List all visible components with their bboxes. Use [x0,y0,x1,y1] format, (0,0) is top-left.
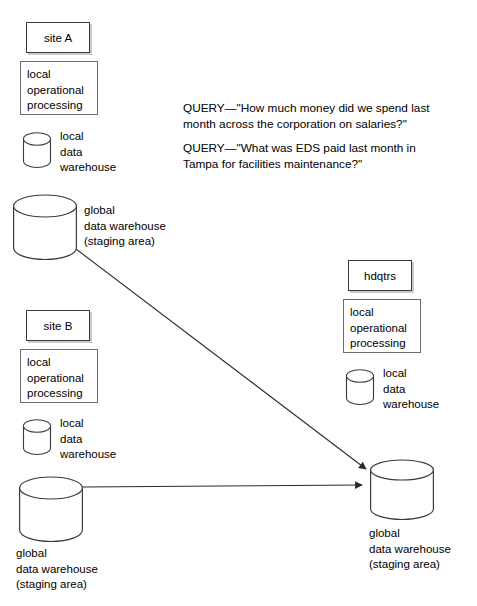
hdqtrs-processing-line-3: processing [350,336,420,352]
hdqtrs-global-warehouse-cylinder[interactable] [369,459,435,527]
query-item-2: QUERY—"What was EDS paid last month in T… [183,141,448,172]
hdqtrs-local-warehouse-cylinder[interactable] [345,369,375,407]
query-item-1: QUERY—"How much money did we spend last … [183,101,448,132]
hdqtrs-local-warehouse-line-1: local [383,366,439,382]
hdqtrs-processing-line-1: local [350,305,420,321]
site-a-global-warehouse-line-3: (staging area) [84,234,166,250]
site-b-local-warehouse-label: local data warehouse [60,416,116,463]
site-a-processing-line-1: local [27,67,97,83]
site-a-local-warehouse-line-3: warehouse [60,160,116,176]
site-a-global-warehouse-line-1: global [84,203,166,219]
hdqtrs-global-warehouse-line-1: global [369,526,451,542]
site-a-operational-processing-box[interactable]: local operational processing [20,61,98,115]
site-b-global-warehouse-cylinder[interactable] [18,476,84,548]
hdqtrs-global-warehouse-line-2: data warehouse [369,542,451,558]
hdqtrs-local-warehouse-line-2: data [383,382,439,398]
site-a-local-warehouse-cylinder[interactable] [22,132,52,170]
query-list: QUERY—"How much money did we spend last … [183,101,451,172]
site-a-global-warehouse-line-2: data warehouse [84,219,166,235]
site-a-local-warehouse-line-1: local [60,129,116,145]
hdqtrs-local-warehouse-line-3: warehouse [383,397,439,413]
site-b-operational-processing-box[interactable]: local operational processing [20,349,98,403]
site-b-processing-line-1: local [27,355,97,371]
site-b-global-warehouse-line-3: (staging area) [16,577,98,593]
site-a-processing-line-3: processing [27,98,97,114]
hdqtrs-header-label: hdqtrs [364,269,396,283]
site-b-global-warehouse-label: global data warehouse (staging area) [16,546,98,593]
hdqtrs-processing-line-2: operational [350,321,420,337]
site-a-header-box[interactable]: site A [26,22,90,53]
site-a-processing-line-2: operational [27,83,97,99]
site-b-global-warehouse-line-2: data warehouse [16,562,98,578]
site-b-local-warehouse-line-3: warehouse [60,447,116,463]
connector-site-b-to-hdqtrs [83,485,362,487]
site-b-processing-line-2: operational [27,371,97,387]
site-b-local-warehouse-line-2: data [60,432,116,448]
site-b-header-box[interactable]: site B [26,310,90,341]
site-a-header-label: site A [44,31,72,45]
hdqtrs-header-box[interactable]: hdqtrs [348,260,412,291]
site-b-local-warehouse-cylinder[interactable] [22,419,52,457]
site-a-local-warehouse-line-2: data [60,145,116,161]
hdqtrs-global-warehouse-line-3: (staging area) [369,557,451,573]
site-b-header-label: site B [44,319,73,333]
site-b-global-warehouse-line-1: global [16,546,98,562]
site-a-global-warehouse-label: global data warehouse (staging area) [84,203,166,250]
site-a-local-warehouse-label: local data warehouse [60,129,116,176]
site-b-processing-line-3: processing [27,386,97,402]
hdqtrs-operational-processing-box[interactable]: local operational processing [343,299,421,353]
site-b-local-warehouse-line-1: local [60,416,116,432]
site-a-global-warehouse-cylinder[interactable] [12,194,78,266]
diagram-canvas: site A local operational processing loca… [0,0,477,606]
hdqtrs-local-warehouse-label: local data warehouse [383,366,439,413]
hdqtrs-global-warehouse-label: global data warehouse (staging area) [369,526,451,573]
connector-site-a-to-hdqtrs [76,249,366,469]
